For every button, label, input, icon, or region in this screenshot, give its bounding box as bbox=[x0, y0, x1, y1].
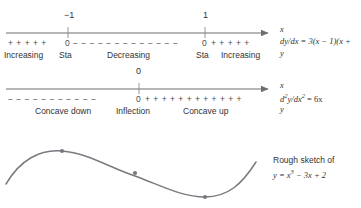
label-increasing-left: Increasing bbox=[4, 50, 43, 60]
sign-row-second-right-plus: + + + + + + + + + + + + bbox=[145, 94, 242, 104]
sketch-caption-line1: Rough sketch of bbox=[273, 155, 334, 166]
first-derivative-axis bbox=[6, 27, 268, 38]
axis-label-x-first: x bbox=[280, 24, 284, 34]
label-decreasing: Decreasing bbox=[107, 50, 150, 60]
caption-eq-suffix: − 3x + 2 bbox=[294, 170, 326, 180]
label-stationary-right: Sta bbox=[196, 50, 209, 60]
sign-row-first-right-zero: 0 bbox=[202, 38, 207, 48]
eqn2-tail: = 6x bbox=[305, 94, 323, 104]
label-stationary-left: Sta bbox=[59, 50, 72, 60]
label-concave-down: Concave down bbox=[35, 106, 91, 116]
tick-label-one: 1 bbox=[203, 10, 208, 20]
tick-label-minus-one: −1 bbox=[64, 10, 74, 20]
calculus-sign-analysis-figure: −1 1 x + + + + + 0 − − − − − − − − − − −… bbox=[0, 0, 361, 208]
sign-row-first-middle-minus: − − − − − − − − − − − − − bbox=[73, 38, 178, 48]
tick-label-zero-second: 0 bbox=[136, 66, 141, 76]
sign-row-first-left-zero: 0 bbox=[65, 38, 70, 48]
sketch-caption-line2: y = x3 − 3x + 2 bbox=[273, 166, 334, 181]
equation-second-derivative-suffix: y bbox=[280, 104, 284, 114]
sign-row-second-left-minus: − − − − − − − − − − − bbox=[8, 94, 97, 104]
local-maximum bbox=[60, 149, 64, 153]
equation-second-derivative: d2y/dx2 = 6x bbox=[280, 92, 322, 104]
eqn2-body: y/dx bbox=[288, 94, 302, 104]
sketch-caption: Rough sketch of y = x3 − 3x + 2 bbox=[273, 155, 334, 181]
local-minimum bbox=[203, 195, 207, 199]
sign-row-second-zero: 0 bbox=[136, 94, 141, 104]
sign-row-first-left-plus: + + + + + bbox=[8, 38, 47, 48]
equation-first-derivative: dy/dx = 3(x − 1)(x + bbox=[280, 36, 351, 46]
axis-label-x-second: x bbox=[280, 80, 284, 90]
inflection-point bbox=[133, 171, 137, 175]
equation-first-derivative-suffix: y bbox=[280, 48, 284, 58]
label-increasing-right: Increasing bbox=[221, 50, 260, 60]
cubic-curve-sketch bbox=[6, 149, 256, 199]
label-inflection: Inflection bbox=[116, 106, 150, 116]
label-concave-up: Concave up bbox=[183, 106, 228, 116]
caption-eq-prefix: y = x bbox=[273, 170, 291, 180]
sign-row-first-right-plus: + + + + + bbox=[211, 38, 250, 48]
second-derivative-axis bbox=[6, 83, 268, 94]
